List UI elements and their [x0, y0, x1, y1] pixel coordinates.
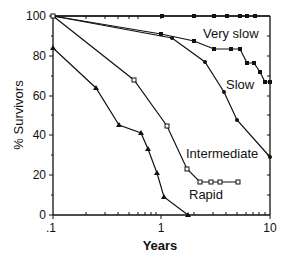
x-axis-label: Years [143, 238, 178, 253]
survival-chart: 0 20 40 60 80 100 .1 1 10 Years % Surviv… [0, 0, 290, 260]
x-tick-labels: .1 1 10 [46, 221, 277, 235]
svg-text:20: 20 [33, 168, 47, 182]
y-axis-label: % Survivors [11, 80, 26, 150]
svg-text:40: 40 [33, 128, 47, 142]
svg-text:Rapid: Rapid [189, 187, 223, 202]
svg-text:10: 10 [263, 221, 277, 235]
series-labels: Very slow Slow Intermediate Rapid [186, 26, 259, 202]
svg-text:Intermediate: Intermediate [186, 146, 258, 161]
svg-text:Very slow: Very slow [203, 26, 259, 41]
svg-text:.1: .1 [46, 221, 56, 235]
svg-text:0: 0 [39, 208, 46, 222]
axes [53, 16, 270, 215]
y-tick-labels: 0 20 40 60 80 100 [26, 9, 46, 222]
svg-text:1: 1 [158, 221, 165, 235]
svg-text:Slow: Slow [226, 77, 255, 92]
svg-text:100: 100 [26, 9, 46, 23]
svg-text:80: 80 [33, 49, 47, 63]
svg-text:60: 60 [33, 89, 47, 103]
